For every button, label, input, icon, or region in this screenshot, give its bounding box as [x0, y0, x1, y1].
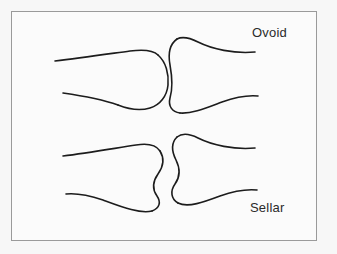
- ovoid-left-convex-head: [118, 55, 168, 109]
- joint-shapes-figure: Ovoid Sellar: [0, 0, 337, 254]
- sellar-label: Sellar: [250, 200, 284, 215]
- ovoid-right-upper-shaft: [177, 38, 255, 53]
- sellar-right-lower-shaft: [178, 190, 257, 205]
- ovoid-left-lower-shaft: [63, 93, 118, 105]
- ovoid-convex-bone: [55, 50, 168, 109]
- sellar-left-saddle-end: [152, 151, 163, 211]
- sellar-saddle-bone-right: [172, 134, 257, 204]
- ovoid-label: Ovoid: [252, 25, 287, 40]
- sellar-joint-group: [63, 134, 257, 211]
- ovoid-concave-bone: [169, 38, 258, 114]
- ovoid-left-upper-shaft: [55, 50, 158, 61]
- sellar-right-saddle-end: [172, 137, 179, 203]
- sellar-right-upper-shaft: [177, 134, 255, 148]
- sellar-left-lower-shaft: [66, 194, 152, 212]
- ovoid-joint-group: [55, 38, 258, 114]
- sellar-left-upper-shaft: [63, 144, 160, 156]
- ovoid-right-lower-shaft: [180, 96, 258, 113]
- ovoid-right-concave-socket: [169, 39, 180, 113]
- sellar-saddle-bone-left: [63, 144, 163, 211]
